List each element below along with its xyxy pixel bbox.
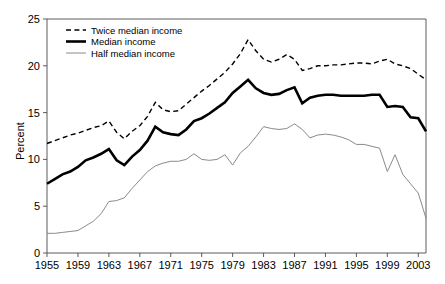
chart-canvas: 0510152025195519591963196719711975197919… bbox=[0, 0, 445, 284]
x-tick-label: 1971 bbox=[159, 259, 183, 271]
legend-label-2: Half median income bbox=[91, 48, 175, 59]
x-tick-label: 1991 bbox=[313, 259, 337, 271]
x-tick-label: 1963 bbox=[97, 259, 121, 271]
x-tick-label: 1955 bbox=[35, 259, 59, 271]
y-tick-label: 10 bbox=[28, 153, 40, 165]
x-tick-label: 1975 bbox=[189, 259, 213, 271]
y-tick-label: 0 bbox=[34, 247, 40, 259]
x-tick-label: 1987 bbox=[282, 259, 306, 271]
legend-label-1: Median income bbox=[91, 36, 155, 47]
x-tick-label: 1999 bbox=[375, 259, 399, 271]
x-tick-label: 2003 bbox=[406, 259, 430, 271]
x-tick-label: 1995 bbox=[344, 259, 368, 271]
y-tick-label: 15 bbox=[28, 107, 40, 119]
series-line-2 bbox=[47, 124, 426, 234]
x-tick-label: 1967 bbox=[128, 259, 152, 271]
y-tick-label: 25 bbox=[28, 13, 40, 25]
y-tick-label: 5 bbox=[34, 200, 40, 212]
y-tick-label: 20 bbox=[28, 60, 40, 72]
x-tick-label: 1983 bbox=[251, 259, 275, 271]
x-tick-label: 1959 bbox=[66, 259, 90, 271]
series-line-1 bbox=[47, 80, 426, 184]
x-tick-label: 1979 bbox=[220, 259, 244, 271]
legend-label-0: Twice median income bbox=[91, 25, 182, 36]
line-chart: Percent 05101520251955195919631967197119… bbox=[0, 0, 445, 284]
